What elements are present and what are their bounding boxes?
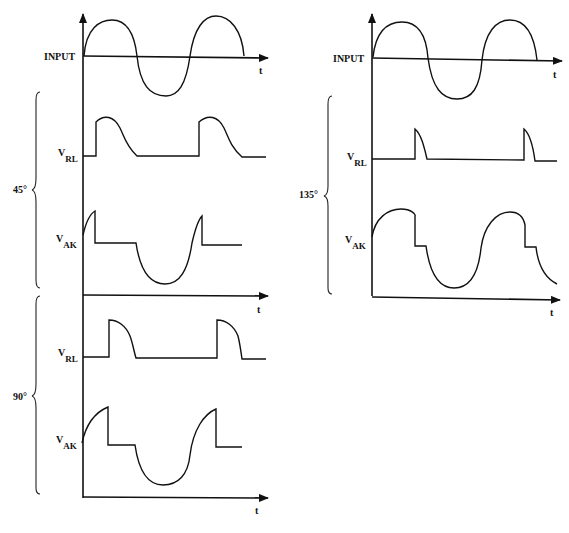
- angle-label-90: 90°: [13, 391, 27, 402]
- vrl-135-label: VRL: [347, 151, 367, 168]
- right-input-waveform: INPUT t: [333, 20, 562, 99]
- t-label-135: t: [550, 307, 554, 318]
- group-90: 90° VRL VAK t: [13, 296, 268, 516]
- vrl-90-waveform: [83, 320, 266, 359]
- group-45: 45° VRL VAK t: [13, 92, 268, 315]
- time-axis-135: [372, 297, 560, 300]
- waveform-diagram: INPUT t 45° VRL VAK t 90° VRL VAK: [0, 0, 569, 533]
- vak-90-label: VAK: [56, 434, 77, 451]
- brace-90: [32, 296, 40, 494]
- left-input-label: INPUT: [44, 51, 75, 62]
- right-input-t-label: t: [553, 69, 557, 80]
- left-input-waveform: INPUT t: [44, 16, 268, 96]
- t-label-45: t: [257, 304, 261, 315]
- left-input-t-label: t: [259, 65, 263, 76]
- vak-135-waveform: [372, 209, 557, 288]
- vak-90-waveform: [82, 407, 242, 485]
- angle-label-135: 135°: [299, 189, 318, 200]
- brace-45: [32, 92, 40, 288]
- right-input-time-axis: [372, 58, 562, 61]
- left-panel: INPUT t 45° VRL VAK t 90° VRL VAK: [13, 14, 268, 516]
- vak-45-label: VAK: [56, 233, 77, 250]
- brace-135: [324, 96, 332, 294]
- vrl-135-waveform: [372, 129, 557, 161]
- left-input-time-axis: [83, 56, 268, 58]
- group-135: 135° VRL VAK t: [299, 96, 560, 318]
- vak-135-label: VAK: [345, 234, 366, 251]
- t-label-90: t: [255, 505, 259, 516]
- vrl-45-waveform: [83, 117, 266, 157]
- vrl-90-label: VRL: [58, 347, 78, 364]
- time-axis-90: [83, 497, 268, 498]
- vrl-45-label: VRL: [58, 147, 78, 164]
- angle-label-45: 45°: [13, 184, 27, 195]
- vak-45-waveform: [83, 211, 242, 284]
- right-panel: INPUT t 135° VRL VAK t: [299, 14, 562, 318]
- time-axis-45: [83, 295, 268, 296]
- right-input-label: INPUT: [333, 53, 364, 64]
